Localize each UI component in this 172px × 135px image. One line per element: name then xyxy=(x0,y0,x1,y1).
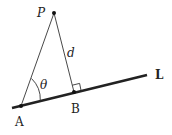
label-p: P xyxy=(36,6,46,20)
angle-arc-theta xyxy=(32,79,41,101)
point-a xyxy=(19,104,23,108)
point-b xyxy=(72,90,76,94)
label-a: A xyxy=(14,115,24,129)
label-b: B xyxy=(71,102,80,116)
label-l: L xyxy=(155,68,164,82)
diagram-canvas: P d θ A B L xyxy=(0,0,172,135)
label-theta: θ xyxy=(40,78,48,92)
segment-pa xyxy=(21,13,54,106)
point-p xyxy=(52,11,56,15)
label-d: d xyxy=(67,46,75,60)
distance-diagram: P d θ A B L xyxy=(0,0,172,135)
